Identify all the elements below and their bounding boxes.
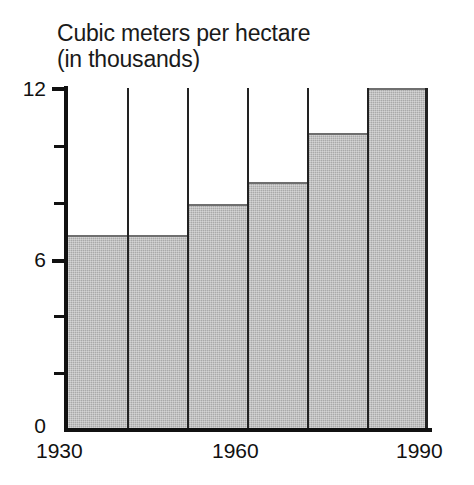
bar-1970 <box>308 133 368 428</box>
bar-top-edge <box>68 235 128 237</box>
y-tick-label-12: 12 <box>0 78 46 99</box>
y-tick-12 <box>52 87 66 91</box>
bar-chart-figure: Cubic meters per hectare (in thousands) … <box>0 0 474 485</box>
chart-title: Cubic meters per hectare (in thousands) <box>57 20 310 72</box>
bar-separator-1 <box>127 88 129 428</box>
bar-1940 <box>128 235 188 428</box>
x-axis-line <box>64 428 432 432</box>
y-tick-8 <box>54 202 66 205</box>
bar-top-edge <box>248 182 308 184</box>
plot-area <box>68 88 428 428</box>
y-tick-label-6: 6 <box>0 249 46 270</box>
bar-1980 <box>368 88 428 428</box>
bar-separator-2 <box>187 88 189 428</box>
bar-separator-5 <box>367 88 369 428</box>
x-tick-label-1930: 1930 <box>36 440 83 462</box>
chart-title-line-1: Cubic meters per hectare <box>57 20 310 46</box>
y-tick-6 <box>52 259 66 263</box>
bar-1960 <box>248 182 308 429</box>
bar-separator-3 <box>247 88 249 428</box>
y-tick-label-0: 0 <box>0 415 46 436</box>
y-tick-10 <box>54 145 66 148</box>
bar-top-edge <box>368 88 428 90</box>
x-tick-label-1990: 1990 <box>396 440 443 462</box>
bar-1930 <box>68 235 128 428</box>
bar-top-edge <box>128 235 188 237</box>
y-tick-4 <box>54 315 66 318</box>
bar-top-edge <box>188 204 248 206</box>
x-tick-label-1960: 1960 <box>212 440 259 462</box>
y-tick-2 <box>54 372 66 375</box>
chart-title-line-2: (in thousands) <box>57 46 310 72</box>
bar-top-edge <box>308 133 368 135</box>
bar-separator-4 <box>307 88 309 428</box>
bar-1950 <box>188 204 248 428</box>
plot-right-edge <box>425 88 428 428</box>
